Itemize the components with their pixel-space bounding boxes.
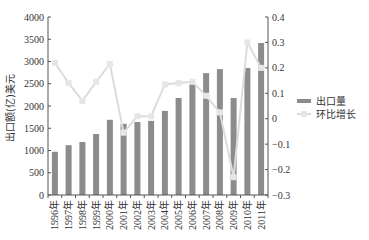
x-tick-label: 2011年: [255, 200, 267, 230]
x-tick-label: 2007年: [200, 200, 212, 230]
line-marker: [148, 113, 154, 119]
bar: [93, 134, 99, 195]
left-tick-label: 3500: [24, 34, 44, 45]
bar: [189, 84, 195, 195]
right-tick-label: −0.2: [272, 164, 290, 175]
legend-label-export: 出口量: [316, 95, 346, 107]
bar: [134, 122, 140, 195]
line-marker: [244, 39, 250, 45]
line-marker: [121, 130, 127, 136]
line-marker: [217, 109, 223, 115]
chart: 05001000150020002500300035004000 −0.3−0.…: [0, 0, 369, 240]
x-tick-label: 1998年: [76, 200, 88, 230]
line-marker: [258, 65, 264, 71]
bar: [217, 69, 223, 195]
left-tick-label: 1000: [24, 145, 44, 156]
x-tick-label: 1997年: [62, 200, 74, 230]
bar: [148, 121, 154, 195]
x-tick-label: 2006年: [186, 200, 198, 230]
line-marker: [66, 80, 72, 86]
x-axis: 1996年1997年1998年1999年2000年2001年2002年2003年…: [48, 195, 268, 230]
right-tick-label: 0.3: [272, 37, 285, 48]
line-marker: [189, 79, 195, 85]
left-tick-label: 4000: [24, 12, 44, 23]
bar: [162, 111, 168, 195]
right-tick-label: 0.2: [272, 62, 285, 73]
line-marker: [93, 79, 99, 85]
right-tick-label: 0.4: [272, 12, 285, 23]
left-axis: 05001000150020002500300035004000: [24, 12, 51, 201]
x-tick-label: 2000年: [103, 200, 115, 230]
x-tick-label: 2001年: [117, 200, 129, 230]
right-tick-label: 0: [272, 113, 277, 124]
line-marker: [134, 113, 140, 119]
x-tick-label: 2005年: [172, 200, 184, 230]
x-tick-label: 1996年: [48, 200, 60, 230]
line-marker: [176, 80, 182, 86]
left-tick-label: 1500: [24, 123, 44, 134]
right-axis: −0.3−0.2−0.100.10.20.30.4: [265, 12, 290, 201]
line-marker: [52, 60, 58, 66]
bar: [52, 152, 58, 195]
x-tick-label: 2009年: [227, 200, 239, 230]
line-marker: [79, 98, 85, 104]
line-marker: [231, 174, 237, 180]
x-tick-label: 2010年: [241, 200, 253, 230]
right-tick-label: −0.3: [272, 190, 290, 201]
bar: [107, 120, 113, 195]
right-tick-label: −0.1: [272, 139, 290, 150]
bar: [176, 98, 182, 195]
x-tick-label: 2002年: [131, 200, 143, 230]
x-tick-label: 1999年: [90, 200, 102, 230]
legend-label-growth: 环比增长: [316, 108, 356, 120]
left-tick-label: 0: [39, 190, 44, 201]
x-tick-label: 2008年: [213, 200, 225, 230]
left-tick-label: 2000: [24, 101, 44, 112]
line-marker: [162, 81, 168, 87]
legend-marker-line: [301, 111, 307, 117]
left-tick-label: 2500: [24, 78, 44, 89]
legend: 出口量 环比增长: [297, 95, 356, 120]
left-tick-label: 3000: [24, 56, 44, 67]
bar: [79, 142, 85, 195]
bar: [231, 98, 237, 195]
x-tick-label: 2003年: [145, 200, 157, 230]
line-marker: [203, 93, 209, 99]
left-tick-label: 500: [29, 167, 44, 178]
bar: [66, 145, 72, 195]
bar: [203, 73, 209, 195]
y-axis-title: 出口额(亿)美元: [4, 74, 16, 142]
x-tick-label: 2004年: [158, 200, 170, 230]
right-tick-label: 0.1: [272, 88, 285, 99]
legend-swatch-bar: [297, 99, 311, 103]
bar: [244, 68, 250, 195]
line-marker: [107, 61, 113, 67]
growth-line: [55, 42, 261, 177]
